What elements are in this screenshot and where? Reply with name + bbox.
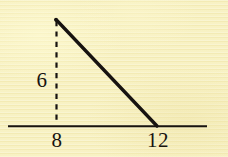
apex-vertex-point — [54, 18, 58, 22]
base-right-label: 12 — [140, 130, 176, 151]
base-left-label: 8 — [41, 130, 73, 151]
geometry-figure: 6 8 12 — [0, 0, 228, 157]
hypotenuse-segment — [56, 20, 157, 127]
height-label: 6 — [26, 70, 58, 91]
